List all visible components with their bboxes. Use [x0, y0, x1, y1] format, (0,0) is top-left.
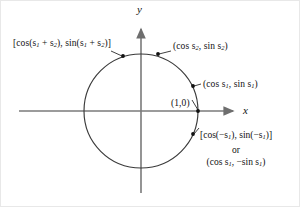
- label-s1-point: (cos s1, sin s1): [203, 79, 258, 91]
- label-sum-point: [cos(s1 + s2), sin(s1 + s2)]: [13, 38, 111, 50]
- negative-angle-note-line3: (cos s1, −sin s1): [200, 156, 272, 171]
- y-axis-label: y: [137, 3, 142, 15]
- point-dot-sum: [121, 54, 125, 58]
- label-one-zero-point: (1,0): [171, 98, 190, 109]
- negative-angle-note-line2: or: [200, 144, 272, 157]
- negative-angle-note-line1: [cos(−s1), sin(−s1)]: [200, 129, 272, 144]
- leader-line-sum-point: [111, 51, 122, 56]
- leader-line-s1-point: [194, 84, 201, 86]
- leader-line-s2-point: [159, 51, 171, 54]
- unit-circle-figure: y x [cos(s1 + s2), sin(s1 + s2)] (cos s2…: [0, 0, 300, 207]
- point-dot-one-zero: [196, 109, 200, 113]
- point-dot-negative-s1: [191, 132, 195, 136]
- label-s2-point: (cos s2, sin s2): [173, 41, 228, 53]
- point-dot-s2: [156, 52, 160, 56]
- diagram-canvas: [1, 1, 300, 207]
- point-dot-s1: [191, 84, 195, 88]
- negative-angle-note: [cos(−s1), sin(−s1)] or (cos s1, −sin s1…: [200, 129, 272, 171]
- x-axis-label: x: [243, 104, 248, 116]
